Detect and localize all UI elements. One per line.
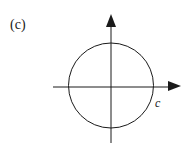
x-axis (53, 81, 181, 91)
circle-diagram (0, 0, 189, 145)
y-axis (106, 14, 116, 143)
intercept-label: c (155, 96, 160, 111)
x-axis-arrow-icon (168, 81, 181, 91)
y-axis-arrow-icon (106, 14, 116, 27)
